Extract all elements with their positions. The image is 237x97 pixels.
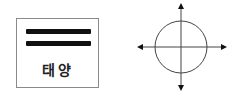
arrow-left-icon xyxy=(137,44,143,50)
arrow-up-icon xyxy=(178,3,184,9)
sun-symbol-box: 태양 xyxy=(16,18,99,88)
arrow-right-icon xyxy=(221,44,227,50)
symbol-label: 태양 xyxy=(17,59,98,79)
symbol-bar-bottom xyxy=(26,41,91,46)
symbol-bar-top xyxy=(26,29,91,34)
arrow-down-icon xyxy=(178,85,184,91)
compass-cross-circle-icon xyxy=(130,0,237,97)
